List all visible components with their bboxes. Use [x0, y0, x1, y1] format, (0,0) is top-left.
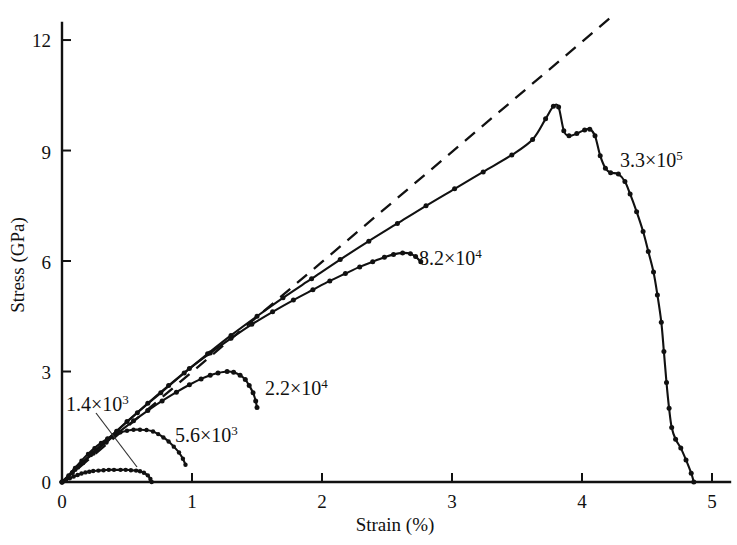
data-point	[673, 437, 678, 442]
data-point	[598, 153, 603, 158]
data-point	[91, 469, 95, 473]
data-point	[684, 457, 689, 462]
data-point	[400, 250, 405, 255]
axes-group	[62, 23, 730, 482]
data-point	[255, 314, 260, 319]
data-point	[129, 468, 133, 472]
data-point	[87, 469, 91, 473]
data-point	[125, 419, 130, 424]
data-point	[144, 428, 148, 432]
x-tick-label-5: 5	[707, 491, 717, 512]
data-point	[678, 446, 683, 451]
data-point	[667, 406, 672, 411]
data-point	[551, 104, 556, 109]
data-point	[616, 172, 621, 177]
data-point	[689, 471, 694, 476]
data-point	[634, 209, 639, 214]
data-point	[79, 471, 83, 475]
x-tick-label-1: 1	[187, 491, 197, 512]
curve-3310^5	[62, 104, 694, 482]
data-point	[281, 295, 286, 300]
data-point	[628, 191, 633, 196]
data-point	[150, 480, 154, 484]
data-point	[366, 239, 371, 244]
data-point	[253, 398, 258, 403]
data-point	[161, 435, 165, 439]
y-tick-label-6: 6	[42, 252, 52, 273]
data-point	[543, 116, 548, 121]
data-point	[166, 383, 171, 388]
data-point	[582, 127, 587, 132]
data-point	[205, 351, 210, 356]
data-point	[424, 203, 429, 208]
data-point	[413, 254, 418, 259]
data-point	[408, 251, 413, 256]
data-point	[131, 428, 135, 432]
data-point	[691, 480, 696, 485]
x-tick-label-2: 2	[317, 491, 327, 512]
data-point	[593, 133, 598, 138]
data-point	[93, 448, 98, 453]
data-point	[66, 473, 70, 477]
series-label-1400: 1.4×103	[66, 392, 129, 415]
data-point	[587, 127, 592, 132]
stress-strain-figure: 0 3 6 9 12 0 1 2 3 4 5 Strain (%) Stress…	[0, 0, 737, 545]
x-tick-label-0: 0	[57, 491, 67, 512]
y-tick-label-12: 12	[32, 30, 51, 51]
data-point	[174, 390, 179, 395]
data-point	[145, 408, 150, 413]
data-point	[310, 287, 315, 292]
y-tick-marks	[62, 40, 71, 371]
data-point	[138, 469, 142, 473]
data-point	[75, 465, 80, 470]
data-point	[96, 468, 100, 472]
data-point	[134, 468, 138, 472]
y-axis-title: Stress (GPa)	[7, 217, 29, 313]
data-point	[142, 471, 146, 475]
data-markers-group	[60, 104, 697, 485]
data-point	[105, 437, 110, 442]
y-tick-label-9: 9	[42, 142, 52, 163]
chart-canvas: 0 3 6 9 12 0 1 2 3 4 5 Strain (%) Stress…	[0, 0, 737, 545]
y-tick-label-3: 3	[42, 362, 52, 383]
data-point	[199, 376, 204, 381]
data-point	[88, 452, 93, 457]
x-tick-marks	[192, 473, 712, 482]
x-tick-labels: 0 1 2 3 4 5	[57, 491, 717, 512]
data-point	[60, 480, 65, 485]
data-point	[183, 462, 187, 466]
data-point	[661, 349, 666, 354]
data-point	[151, 429, 155, 433]
data-point	[567, 133, 572, 138]
x-tick-label-3: 3	[447, 491, 457, 512]
data-point	[156, 432, 160, 436]
data-point	[556, 105, 561, 110]
data-point	[125, 429, 129, 433]
data-point	[251, 390, 256, 395]
data-curves-group	[62, 14, 694, 482]
data-point	[659, 320, 664, 325]
x-axis-title: Strain (%)	[356, 514, 435, 536]
series-label-22000: 2.2×104	[265, 376, 328, 399]
data-point	[370, 259, 375, 264]
data-point	[231, 370, 236, 375]
data-point	[225, 369, 230, 374]
data-point	[160, 398, 165, 403]
data-point	[382, 255, 387, 260]
x-tick-label-4: 4	[577, 491, 587, 512]
data-point	[395, 221, 400, 226]
data-point	[561, 128, 566, 133]
data-point	[651, 270, 656, 275]
data-point	[391, 252, 396, 257]
data-point	[255, 405, 260, 410]
data-point	[99, 441, 103, 445]
y-tick-label-0: 0	[42, 472, 52, 493]
data-point	[101, 468, 105, 472]
data-point	[669, 425, 674, 430]
data-point	[655, 292, 660, 297]
data-point	[75, 473, 79, 477]
data-point	[83, 470, 87, 474]
data-point	[208, 373, 213, 378]
data-point	[343, 271, 348, 276]
data-point	[481, 169, 486, 174]
